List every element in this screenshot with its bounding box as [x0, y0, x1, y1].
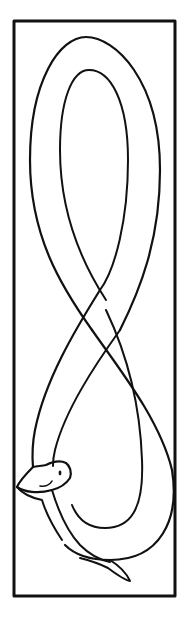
- upper-loop-inner: [60, 70, 128, 300]
- serpent-throat: [52, 490, 110, 562]
- serpent-head: [17, 462, 71, 493]
- upper-loop-outer: [30, 37, 160, 330]
- serpent-figure-eight-drawing: [0, 0, 186, 634]
- body-band-lower-right-inner: [72, 310, 142, 528]
- neck-inner: [53, 330, 120, 466]
- illustration-canvas: Line drawing of a serpent shaped into a …: [0, 0, 186, 634]
- serpent-smile: [40, 481, 52, 486]
- serpent-jaw: [17, 487, 62, 540]
- serpent-eye: [59, 471, 62, 476]
- neck-outer: [32, 290, 100, 467]
